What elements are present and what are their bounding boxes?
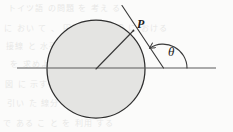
- point-p-marker: [133, 30, 135, 32]
- angle-theta-label: θ: [168, 45, 174, 58]
- geometry-figure: トイツ語 の問題 を 考え る に おい て 、 円周 上 の点 P に おける…: [0, 0, 233, 132]
- diagram-canvas: [0, 0, 233, 132]
- point-p-label: P: [137, 18, 144, 30]
